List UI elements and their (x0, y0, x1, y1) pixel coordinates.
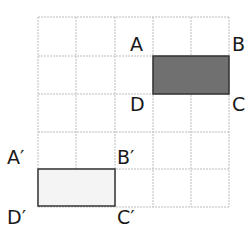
label-a-prime: A′ (7, 148, 24, 167)
label-d-prime: D′ (7, 208, 26, 227)
rectangle-abcd (153, 56, 229, 94)
grid-diagram (0, 0, 251, 228)
label-c-prime: C′ (117, 208, 135, 227)
rectangle-a-prime-b-prime-c-prime-d-prime (38, 169, 115, 206)
label-d: D (130, 95, 145, 114)
label-c: C (232, 95, 245, 114)
label-a: A (130, 35, 143, 54)
label-b: B (232, 35, 245, 54)
label-b-prime: B′ (117, 148, 134, 167)
